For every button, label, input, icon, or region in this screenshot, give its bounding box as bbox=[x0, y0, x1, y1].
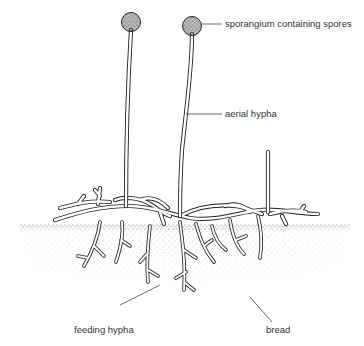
surface-hyphae bbox=[55, 188, 318, 224]
label-feeding-hypha: feeding hypha bbox=[74, 324, 134, 335]
aerial-hyphae bbox=[126, 30, 268, 216]
sporangium-left bbox=[122, 13, 141, 32]
label-sporangium: sporangium containing spores bbox=[225, 18, 352, 29]
mould-diagram bbox=[0, 0, 364, 346]
aerial-hyphae-inner bbox=[126, 30, 268, 216]
sporangium-right bbox=[183, 17, 202, 36]
label-aerial-hypha: aerial hypha bbox=[225, 108, 277, 119]
label-bread: bread bbox=[266, 324, 290, 335]
